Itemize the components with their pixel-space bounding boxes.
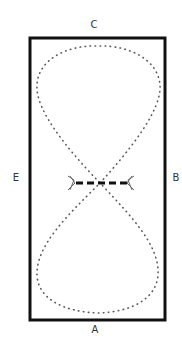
jump-pole [68, 176, 134, 190]
arena-diagram [0, 0, 182, 350]
arena-border [30, 38, 165, 320]
marker-top: C [88, 19, 100, 31]
jump-wing-right-icon [127, 176, 134, 190]
marker-right: B [170, 172, 182, 184]
jump-wing-left-icon [68, 176, 75, 190]
marker-left: E [10, 172, 22, 184]
figure-eight-path [37, 46, 160, 313]
marker-bottom: A [89, 324, 101, 336]
